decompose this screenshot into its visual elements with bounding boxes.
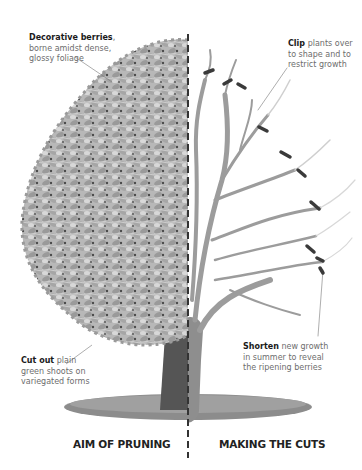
annotation-shorten: Shorten new growth in summer to reveal t… — [243, 342, 328, 374]
annotation-clip: Clip plants over to shape and to restric… — [288, 39, 353, 71]
caption-aim-of-pruning: AIM OF PRUNING — [73, 438, 171, 450]
annotation-bold: Clip — [288, 39, 305, 48]
caption-making-the-cuts: MAKING THE CUTS — [219, 438, 325, 450]
annotation-bold: Shorten — [243, 342, 279, 351]
annotation-decorative-berries: Decorative berries, borne amidst dense, … — [29, 33, 115, 65]
tree-illustration — [0, 0, 362, 470]
annotation-bold: Cut out — [21, 356, 54, 365]
annotation-cut-out: Cut out plain green shoots on variegated… — [21, 356, 90, 388]
annotation-bold: Decorative berries — [29, 33, 113, 42]
foliage-tree-left — [22, 40, 192, 410]
